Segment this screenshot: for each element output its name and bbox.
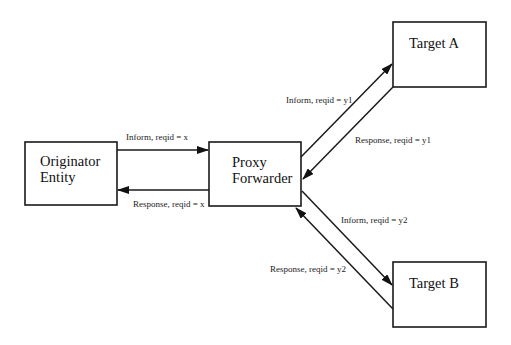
originator-entity-node: Originator Entity <box>25 142 117 205</box>
originator-label-line2: Entity <box>40 169 76 185</box>
proxy-forwarder-node: Proxy Forwarder <box>209 142 301 206</box>
proxy-label-line1: Proxy <box>232 154 267 170</box>
target-a-label: Target A <box>409 35 459 51</box>
edge-label-response-y2: Response, reqid = y2 <box>270 264 346 274</box>
edge-label-inform-y1: Inform, reqid = y1 <box>286 95 353 105</box>
target-b-label: Target B <box>409 275 459 291</box>
edge-label-inform-x: Inform, reqid = x <box>126 132 189 142</box>
edge-label-response-x: Response, reqid = x <box>133 199 205 209</box>
edge-label-response-y1: Response, reqid = y1 <box>355 135 431 145</box>
target-b-node: Target B <box>393 262 486 327</box>
edge-label-inform-y2: Inform, reqid = y2 <box>341 215 408 225</box>
target-a-node: Target A <box>393 22 486 87</box>
proxy-forwarding-diagram: Originator Entity Proxy Forwarder Target… <box>0 0 511 345</box>
originator-label-line1: Originator <box>40 153 101 169</box>
proxy-label-line2: Forwarder <box>232 170 293 186</box>
